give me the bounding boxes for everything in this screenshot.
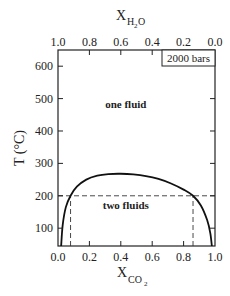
x-tick-label: 0.8 — [176, 250, 191, 264]
x-tick-label: 0.6 — [145, 250, 160, 264]
y-tick-label: 200 — [35, 189, 53, 203]
x2-tick-label: 0.8 — [82, 35, 97, 49]
y-tick-label: 400 — [35, 124, 53, 138]
plot-frame — [58, 50, 215, 246]
x2-tick-label: 0.0 — [208, 35, 223, 49]
x-tick-label: 1.0 — [208, 250, 223, 264]
y-tick-label: 600 — [35, 59, 53, 73]
pressure-label: 2000 bars — [167, 52, 210, 64]
solvus-chart: 0.00.20.40.60.81.01.00.80.60.40.20.01002… — [0, 0, 230, 296]
x2-tick-label: 0.4 — [145, 35, 160, 49]
region-labels: one fluidtwo fluids — [103, 98, 150, 210]
axis-ticks — [58, 50, 215, 246]
x2-tick-label: 0.2 — [176, 35, 191, 49]
x-tick-label: 0.2 — [82, 250, 97, 264]
bottom-axis-label: X CO 2 — [117, 265, 148, 288]
region-label: two fluids — [103, 199, 150, 211]
top-axis-label-main: X — [116, 8, 126, 23]
y-tick-label: 500 — [35, 92, 53, 106]
bottom-axis-label-sub: CO — [128, 274, 142, 285]
y-axis-label: T (°C) — [12, 130, 28, 166]
x-tick-label: 0.0 — [51, 250, 66, 264]
bottom-axis-label-main: X — [117, 265, 127, 280]
x-tick-label: 0.4 — [113, 250, 128, 264]
x2-tick-label: 0.6 — [113, 35, 128, 49]
top-axis-label: X H 2 O — [116, 8, 145, 30]
region-label: one fluid — [105, 98, 146, 110]
y-tick-label: 100 — [35, 221, 53, 235]
x2-tick-label: 1.0 — [51, 35, 66, 49]
y-tick-label: 300 — [35, 156, 53, 170]
bottom-axis-label-subsub: 2 — [144, 280, 148, 288]
top-axis-label-tail: O — [138, 16, 145, 27]
